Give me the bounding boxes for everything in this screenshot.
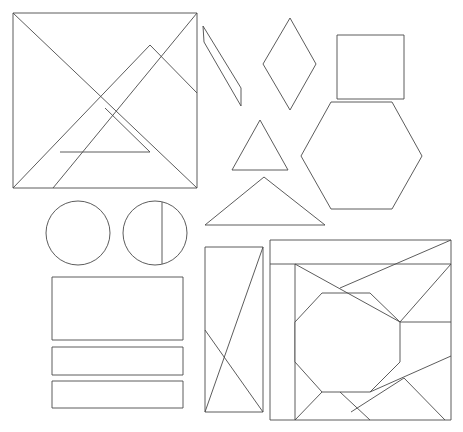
tangram-square — [13, 13, 197, 188]
square-outline — [337, 35, 404, 99]
hexagon-outline — [301, 102, 422, 209]
thin-parallelogram-outline — [203, 26, 241, 106]
rectangle-large-outline — [52, 277, 183, 340]
figure-root — [0, 0, 463, 432]
rectangle-large — [52, 277, 183, 340]
rhombus-outline — [263, 18, 316, 110]
small-triangle-outline — [232, 120, 288, 170]
rectangle-bar-top — [52, 347, 183, 375]
rectangle-bar-bottom — [52, 381, 183, 408]
rhombus — [263, 18, 316, 110]
puzzle-octagon — [295, 293, 400, 392]
square — [337, 35, 404, 99]
circle-with-chord-outline — [123, 201, 187, 265]
circle-plain-outline — [46, 201, 110, 265]
small-triangle — [232, 120, 288, 170]
puzzle-square — [270, 240, 451, 420]
rectangle-crossed — [205, 247, 263, 412]
rectangle-bar-bottom-outline — [52, 381, 183, 408]
thin-parallelogram — [203, 26, 241, 106]
rectangle-bar-top-outline — [52, 347, 183, 375]
circle-plain — [46, 201, 110, 265]
circle-with-chord — [123, 201, 187, 265]
hexagon — [301, 102, 422, 209]
large-triangle — [205, 177, 325, 225]
shapes-canvas — [0, 0, 463, 432]
large-triangle-outline — [205, 177, 325, 225]
